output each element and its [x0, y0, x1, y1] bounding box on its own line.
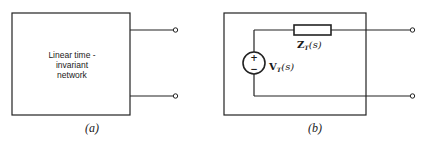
block-label-line-3: network: [57, 70, 88, 80]
impedance-label: ZT(s): [297, 39, 322, 51]
thevenin-diagram: Linear time - invariant network (a) + − …: [0, 0, 423, 145]
impedance-element: [294, 25, 331, 35]
figure-b: + − ZT(s) VT(s) (b): [224, 13, 415, 135]
terminal-top-a: [173, 28, 177, 32]
caption-b: (b): [308, 121, 322, 135]
figure-a: Linear time - invariant network (a): [12, 13, 178, 135]
source-plus: +: [250, 53, 258, 63]
terminal-bottom-a: [173, 94, 177, 98]
block-label-line-2: invariant: [56, 60, 89, 70]
terminal-top-b: [410, 28, 414, 32]
terminal-bottom-b: [410, 94, 414, 98]
source-minus: −: [250, 64, 258, 74]
source-label: VT(s): [268, 61, 294, 73]
block-label-line-1: Linear time -: [48, 50, 95, 60]
caption-a: (a): [85, 121, 99, 135]
